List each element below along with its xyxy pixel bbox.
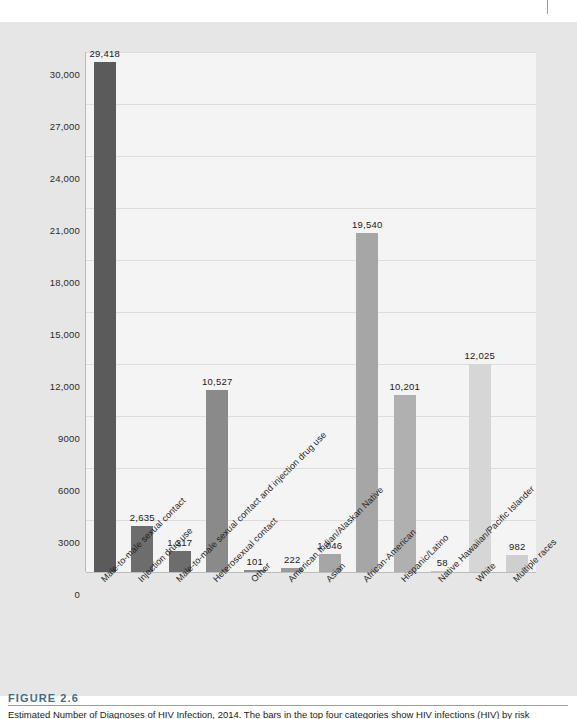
page-top-margin xyxy=(0,0,577,22)
y-axis-tick-label: 21,000 xyxy=(10,225,80,236)
y-axis-tick-label: 3000 xyxy=(10,537,80,548)
bar-value-label: 19,540 xyxy=(352,219,382,230)
y-axis-tick-label: 24,000 xyxy=(10,173,80,184)
y-axis-tick-label: 12,000 xyxy=(10,381,80,392)
bar-value-label: 10,201 xyxy=(390,381,420,392)
gridline xyxy=(86,156,536,157)
gridline xyxy=(86,260,536,261)
plot-area: 29,4182,6351,21710,5271012221,04619,5401… xyxy=(85,52,536,572)
y-axis-tick-label: 15,000 xyxy=(10,329,80,340)
y-axis-tick-label: 9000 xyxy=(10,433,80,444)
gridline xyxy=(86,312,536,313)
bar xyxy=(356,233,378,572)
figure-panel: Number of New HIV Infections 30,00027,00… xyxy=(0,22,577,696)
gridline xyxy=(86,208,536,209)
crop-mark-icon xyxy=(547,0,548,14)
y-axis-tick-label: 0 xyxy=(10,589,80,600)
gridline xyxy=(86,104,536,105)
bar-value-label: 12,025 xyxy=(465,350,495,361)
y-axis-tick-label: 30,000 xyxy=(10,69,80,80)
figure-number: FIGURE 2.6 xyxy=(8,692,568,706)
bar-value-label: 10,527 xyxy=(202,376,232,387)
bar-value-label: 982 xyxy=(509,541,525,552)
bar-value-label: 2,635 xyxy=(130,512,155,523)
y-axis-tick-label: 18,000 xyxy=(10,277,80,288)
bar-value-label: 29,418 xyxy=(90,48,120,59)
bar xyxy=(94,62,116,572)
figure-caption-text: Estimated Number of Diagnoses of HIV Inf… xyxy=(8,709,568,719)
figure-caption-block: FIGURE 2.6 Estimated Number of Diagnoses… xyxy=(8,688,568,719)
y-axis-tick-label: 6000 xyxy=(10,485,80,496)
y-axis-tick-label: 27,000 xyxy=(10,121,80,132)
gridline xyxy=(86,52,536,53)
